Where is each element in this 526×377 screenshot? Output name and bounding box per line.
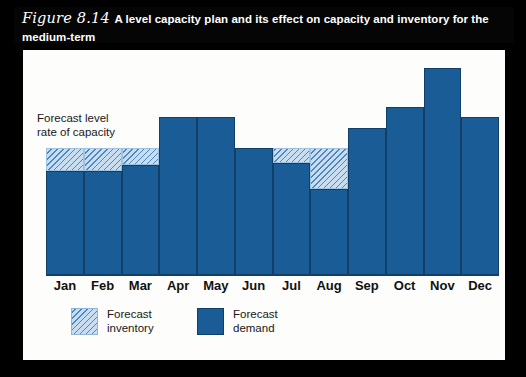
bar-forecast-demand — [424, 68, 462, 275]
bar-forecast-inventory — [122, 148, 160, 165]
chart-panel: Forecast level rate of capacity JanFebMa… — [20, 47, 508, 363]
bar-forecast-demand — [235, 148, 273, 275]
x-axis-label-jun: Jun — [235, 278, 273, 293]
bar-forecast-demand — [122, 165, 160, 275]
bar-forecast-demand — [273, 163, 311, 275]
bar-group — [310, 59, 348, 275]
bar-group — [386, 59, 424, 275]
plot-area — [46, 59, 499, 275]
x-axis-label-nov: Nov — [424, 278, 462, 293]
bar-group — [461, 59, 499, 275]
bar-group — [348, 59, 386, 275]
bar-forecast-demand — [310, 189, 348, 275]
bar-forecast-demand — [348, 128, 386, 275]
bar-group — [273, 59, 311, 275]
bar-forecast-inventory — [310, 148, 348, 189]
bar-forecast-inventory — [273, 148, 311, 163]
chart-legend: Forecast inventory Forecast demand — [71, 308, 371, 344]
x-axis-labels: JanFebMarAprMayJunJulAugSepOctNovDec — [46, 278, 499, 298]
bar-group — [424, 59, 462, 275]
bar-forecast-demand — [84, 171, 122, 275]
legend-swatch-forecast-inventory — [71, 308, 98, 335]
bar-group — [159, 59, 197, 275]
bar-forecast-inventory — [84, 148, 122, 172]
legend-label-forecast-inventory: Forecast inventory — [107, 308, 154, 335]
bar-forecast-demand — [159, 117, 197, 275]
bar-forecast-demand — [46, 171, 84, 275]
bar-forecast-demand — [461, 117, 499, 275]
bar-group — [122, 59, 160, 275]
x-axis-label-dec: Dec — [461, 278, 499, 293]
x-axis-label-may: May — [197, 278, 235, 293]
x-axis-label-oct: Oct — [386, 278, 424, 293]
legend-item-forecast-inventory: Forecast inventory — [71, 308, 154, 335]
bar-group — [46, 59, 84, 275]
x-axis-label-sep: Sep — [348, 278, 386, 293]
x-axis-label-aug: Aug — [310, 278, 348, 293]
x-axis-label-mar: Mar — [122, 278, 160, 293]
figure-root: Figure 8.14 A level capacity plan and it… — [0, 0, 526, 377]
figure-number: Figure 8.14 — [22, 10, 110, 26]
legend-label-forecast-demand: Forecast demand — [233, 308, 278, 335]
bar-group — [235, 59, 273, 275]
bar-forecast-demand — [386, 107, 424, 275]
x-axis-label-feb: Feb — [84, 278, 122, 293]
bar-group — [84, 59, 122, 275]
legend-swatch-forecast-demand — [197, 308, 224, 335]
legend-item-forecast-demand: Forecast demand — [197, 308, 278, 335]
bar-forecast-inventory — [46, 148, 84, 172]
figure-title-bar: Figure 8.14 A level capacity plan and it… — [14, 7, 514, 43]
x-axis-label-jul: Jul — [273, 278, 311, 293]
x-axis-label-jan: Jan — [46, 278, 84, 293]
bar-forecast-demand — [197, 117, 235, 275]
bar-chart: Forecast level rate of capacity JanFebMa… — [23, 50, 505, 360]
x-axis-label-apr: Apr — [159, 278, 197, 293]
bar-group — [197, 59, 235, 275]
